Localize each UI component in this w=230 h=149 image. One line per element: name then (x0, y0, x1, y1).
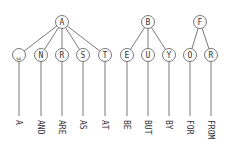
child-node: Y (163, 49, 176, 62)
child-node: T (99, 49, 112, 62)
child-node: N (35, 49, 48, 62)
subtree-b: BEBEUBUTYBY (121, 16, 176, 135)
child-node: R (205, 49, 218, 62)
node-letter: N (39, 51, 44, 60)
child-node: E (121, 49, 134, 62)
node-letter: B (146, 18, 151, 27)
child-node: R (56, 49, 69, 62)
word-label: BE (122, 120, 131, 130)
edge (44, 27, 58, 49)
root-node: B (142, 16, 155, 29)
word-label: AND (36, 120, 45, 135)
edge (151, 27, 165, 49)
root-node: F (194, 16, 207, 29)
subtree-a: A␣ANANDRARESASTAT (13, 16, 112, 135)
word-label: A (14, 120, 23, 125)
word-label: AT (100, 120, 109, 130)
edge (130, 27, 144, 49)
word-label: BUT (143, 120, 152, 135)
subtree-f: FOFORRFROM (184, 16, 218, 140)
child-node: O (184, 49, 197, 62)
node-letter: T (103, 51, 108, 60)
node-letter: S (81, 51, 86, 60)
trie-diagram: A␣ANANDRARESASTATBEBEUBUTYBYFOFORRFROM (0, 0, 230, 149)
child-node: S (77, 49, 90, 62)
node-letter: E (125, 51, 130, 60)
word-label: ARE (57, 120, 66, 135)
root-node: A (56, 16, 69, 29)
node-letter: F (198, 18, 203, 27)
node-letter: A (60, 18, 65, 27)
word-label: BY (164, 120, 173, 130)
node-letter: O (188, 51, 193, 60)
word-label: FROM (206, 120, 215, 139)
word-label: FOR (185, 120, 194, 135)
edge (202, 28, 209, 49)
node-letter: U (146, 51, 151, 60)
edge (65, 27, 79, 49)
child-node: ␣ (13, 49, 26, 62)
node-letter: ␣ (17, 51, 22, 60)
node-letter: Y (167, 51, 172, 60)
child-node: U (142, 49, 155, 62)
edge (192, 28, 198, 49)
node-letter: R (209, 51, 214, 60)
word-label: AS (78, 120, 87, 130)
node-letter: R (60, 51, 65, 60)
